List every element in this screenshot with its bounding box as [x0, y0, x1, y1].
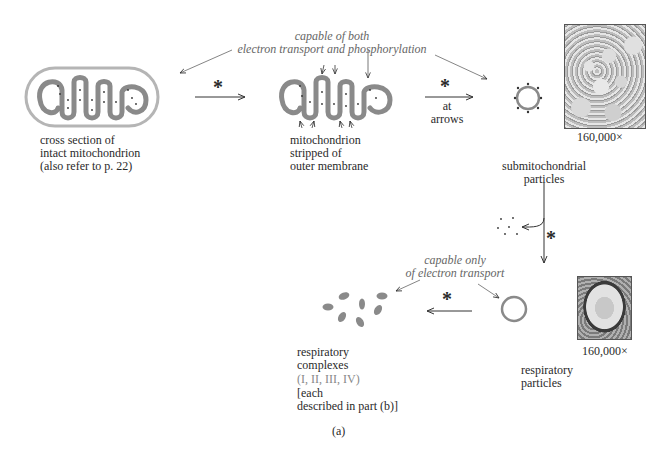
label-line: (also refer to p. 22): [40, 160, 140, 173]
step-marker-1: *: [213, 81, 223, 94]
annotation-line: of electron transport: [400, 267, 510, 280]
label-line: outer membrane: [290, 160, 368, 173]
arrow-caption-line: arrows: [424, 113, 470, 126]
note-line: described in part (b)]: [297, 400, 398, 413]
label-line: complexes: [297, 359, 398, 372]
label-complexes: respiratory complexes (I, II, III, IV) […: [297, 346, 398, 413]
label-respiratory-particles: respiratory particles: [521, 364, 573, 390]
annotation-only: capable only of electron transport: [400, 254, 510, 280]
step-marker-2: *: [440, 80, 450, 93]
complex-list: (I, II, III, IV): [297, 373, 398, 386]
stripped-mitochondrion-icon: [282, 65, 390, 128]
annotation-both: capable of both electron transport and p…: [232, 30, 432, 56]
label-intact: cross section of intact mitochondrion (a…: [40, 134, 140, 173]
intact-mitochondrion-icon: [26, 68, 158, 126]
respiratory-particle-icon: [502, 297, 526, 321]
step-marker-3: *: [546, 232, 556, 245]
arrow-caption: at arrows: [424, 100, 470, 126]
released-particles-icon: [497, 217, 518, 235]
micrograph-submitochondrial: [564, 24, 646, 129]
annotation-line: electron transport and phosphorylation: [232, 43, 432, 56]
label-line: particles: [494, 173, 594, 186]
label-stripped: mitochondrion stripped of outer membrane: [290, 134, 368, 173]
magnification-1: 160,000×: [577, 131, 623, 144]
step-marker-4: *: [442, 293, 452, 306]
respiratory-complexes-icon: [323, 291, 388, 329]
label-line: particles: [521, 377, 573, 390]
micrograph-respiratory-particle: [577, 276, 632, 340]
submitochondrial-particle-icon: [514, 83, 542, 113]
panel-label: (a): [332, 425, 345, 438]
label-submitochondrial: submitochondrial particles: [494, 160, 594, 186]
magnification-2: 160,000×: [582, 345, 628, 358]
